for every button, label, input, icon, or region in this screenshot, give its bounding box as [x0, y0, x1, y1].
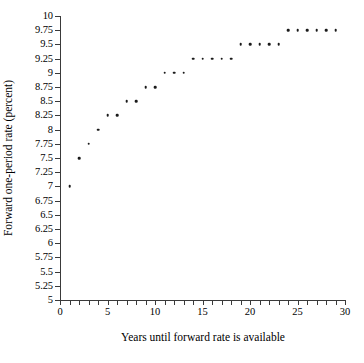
- x-tick-mark: [165, 300, 166, 305]
- y-tick-mark: [55, 257, 60, 258]
- x-tick-label: 20: [245, 307, 256, 318]
- data-point: [78, 157, 81, 160]
- y-tick-label: 7.25: [35, 167, 53, 178]
- x-tick-mark: [127, 300, 128, 305]
- y-tick-mark: [55, 158, 60, 159]
- y-tick-mark: [55, 286, 60, 287]
- y-tick-label: 5: [48, 295, 53, 306]
- x-tick-label: 30: [340, 307, 351, 318]
- x-tick-mark: [269, 300, 270, 305]
- x-tick-label: 15: [197, 307, 208, 318]
- y-tick-label: 5.75: [35, 252, 53, 263]
- y-tick-mark: [55, 87, 60, 88]
- data-point: [296, 29, 299, 32]
- x-tick-mark: [336, 300, 337, 305]
- data-point: [220, 57, 223, 60]
- data-point: [154, 86, 157, 89]
- y-tick-label: 8.25: [35, 110, 53, 121]
- x-tick-mark: [79, 300, 80, 305]
- y-tick-mark: [55, 59, 60, 60]
- x-tick-label: 10: [150, 307, 161, 318]
- x-tick-label: 0: [57, 307, 62, 318]
- data-point: [211, 57, 214, 60]
- data-point: [106, 114, 109, 117]
- x-tick-mark: [155, 300, 156, 305]
- x-tick-mark: [307, 300, 308, 305]
- y-tick-mark: [55, 186, 60, 187]
- data-point: [258, 43, 261, 46]
- x-tick-mark: [241, 300, 242, 305]
- data-point: [334, 29, 337, 32]
- x-tick-mark: [345, 300, 346, 305]
- y-tick-label: 7.75: [35, 139, 53, 150]
- data-point: [287, 29, 290, 32]
- data-point: [125, 100, 128, 103]
- y-tick-mark: [55, 172, 60, 173]
- y-tick-label: 10: [43, 11, 53, 22]
- y-tick-mark: [55, 130, 60, 131]
- y-tick-mark: [55, 115, 60, 116]
- x-tick-mark: [108, 300, 109, 305]
- x-tick-mark: [193, 300, 194, 305]
- y-tick-label: 9.5: [40, 39, 53, 50]
- y-tick-label: 9: [48, 68, 53, 79]
- x-tick-mark: [60, 300, 61, 305]
- x-tick-label: 25: [292, 307, 303, 318]
- y-tick-label: 9.75: [35, 25, 53, 36]
- x-tick-mark: [326, 300, 327, 305]
- data-point: [230, 57, 233, 60]
- data-point: [182, 72, 185, 75]
- y-tick-label: 6: [48, 238, 53, 249]
- data-point: [68, 185, 71, 188]
- y-tick-mark: [55, 144, 60, 145]
- data-point: [277, 43, 280, 46]
- y-tick-mark: [55, 73, 60, 74]
- x-tick-mark: [174, 300, 175, 305]
- y-tick-label: 6.5: [40, 210, 53, 221]
- x-tick-label: 5: [105, 307, 110, 318]
- data-point: [315, 29, 318, 32]
- y-tick-label: 5.25: [35, 281, 53, 292]
- x-tick-mark: [250, 300, 251, 305]
- y-tick-mark: [55, 201, 60, 202]
- data-point: [173, 72, 176, 75]
- x-tick-mark: [117, 300, 118, 305]
- x-tick-mark: [136, 300, 137, 305]
- data-point: [325, 29, 328, 32]
- y-tick-mark: [55, 101, 60, 102]
- data-point: [201, 57, 204, 60]
- y-tick-mark: [55, 243, 60, 244]
- y-tick-label: 9.25: [35, 53, 53, 64]
- x-tick-mark: [212, 300, 213, 305]
- x-tick-mark: [231, 300, 232, 305]
- x-tick-mark: [146, 300, 147, 305]
- data-point: [163, 72, 166, 75]
- data-point: [87, 143, 90, 146]
- y-tick-label: 8.5: [40, 96, 53, 107]
- y-tick-label: 7.5: [40, 153, 53, 164]
- y-tick-mark: [55, 16, 60, 17]
- y-tick-label: 7: [48, 181, 53, 192]
- data-point: [192, 57, 195, 60]
- y-tick-mark: [55, 215, 60, 216]
- x-tick-mark: [279, 300, 280, 305]
- y-tick-mark: [55, 30, 60, 31]
- x-tick-mark: [222, 300, 223, 305]
- y-tick-label: 5.5: [40, 266, 53, 277]
- y-tick-mark: [55, 44, 60, 45]
- data-point: [97, 128, 100, 131]
- x-tick-mark: [203, 300, 204, 305]
- x-tick-mark: [89, 300, 90, 305]
- data-point: [239, 43, 242, 46]
- data-point: [144, 86, 147, 89]
- data-point: [116, 114, 119, 117]
- y-tick-mark: [55, 229, 60, 230]
- y-axis-title: Forward one-period rate (percent): [0, 16, 16, 300]
- x-tick-mark: [288, 300, 289, 305]
- x-tick-mark: [260, 300, 261, 305]
- x-tick-mark: [70, 300, 71, 305]
- y-tick-mark: [55, 272, 60, 273]
- forward-rate-scatter-figure: Forward one-period rate (percent) 109.75…: [0, 0, 364, 363]
- y-tick-label: 6.25: [35, 224, 53, 235]
- x-axis-title: Years until forward rate is available: [60, 332, 346, 344]
